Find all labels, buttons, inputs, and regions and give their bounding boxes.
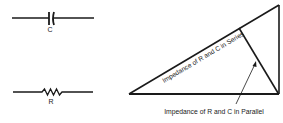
perpendicular-line (239, 28, 278, 93)
capacitor-symbol (12, 12, 94, 25)
impedance-diagram: C R Impedance of R and C in Series Imped… (0, 0, 283, 123)
pointer-arrow-line (236, 64, 255, 104)
resistor-label: R (48, 98, 53, 105)
resistor-symbol (13, 89, 93, 95)
series-impedance-label: Impedance of R and C in Series (161, 30, 246, 85)
capacitor-label: C (47, 26, 52, 33)
parallel-impedance-label: Impedance of R and C in Parallel (164, 108, 264, 116)
hypotenuse-line (129, 5, 279, 94)
arrowhead-icon (253, 61, 257, 67)
